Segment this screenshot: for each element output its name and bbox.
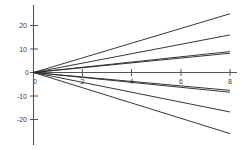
x-tick-label-0: 0 [33, 78, 37, 85]
y-tick-label-0: 0 [25, 69, 29, 76]
plot-canvas: 20 10 0 -10 -20 0 2 4 6 8 [0, 0, 248, 150]
x-tick-label-8: 8 [228, 78, 232, 85]
x-tick-label-2: 2 [81, 78, 85, 85]
line-plot: 20 10 0 -10 -20 0 2 4 6 8 [0, 0, 248, 150]
y-tick-label-20: 20 [19, 22, 27, 29]
x-tick-label-6: 6 [179, 78, 183, 85]
y-tick-label-minus-10: -10 [17, 93, 27, 100]
y-tick-label-10: 10 [19, 46, 27, 53]
y-axis-tick-labels: 20 10 0 -10 -20 [17, 22, 29, 123]
y-tick-label-minus-20: -20 [17, 116, 27, 123]
series-line [34, 14, 231, 73]
series-line [34, 35, 231, 73]
